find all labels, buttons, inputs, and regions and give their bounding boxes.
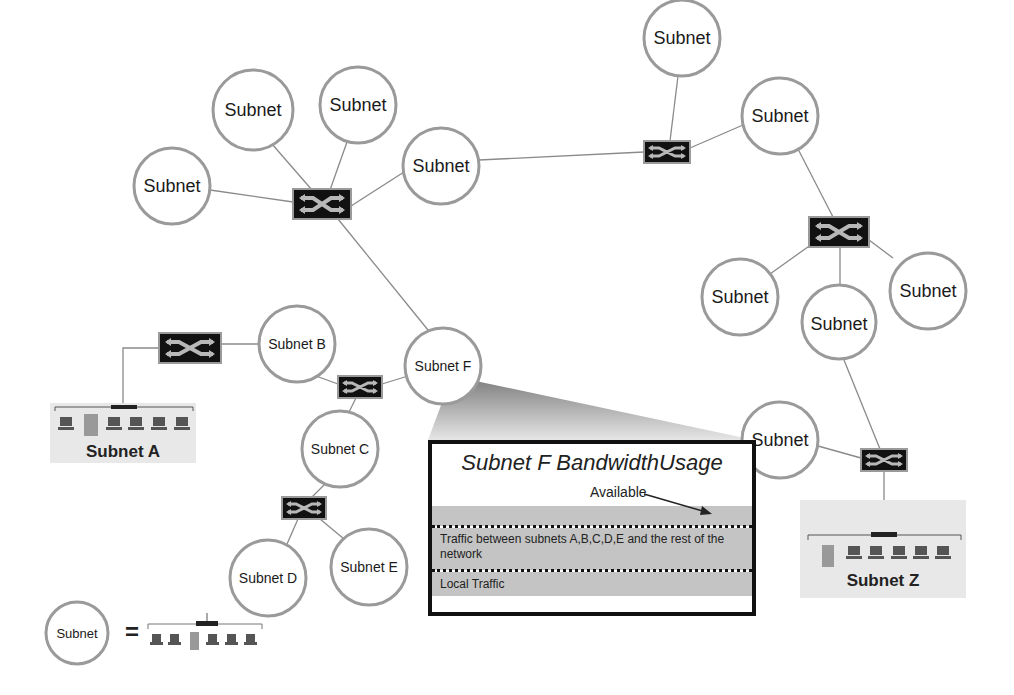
computer-icons <box>150 632 257 650</box>
subnet-node[interactable]: Subnet <box>134 148 210 224</box>
subnet-f-label: Subnet F <box>415 358 472 374</box>
subnet-e-node[interactable]: Subnet E <box>331 529 407 605</box>
subnet-node[interactable]: Subnet <box>320 67 396 143</box>
subnet-d-label: Subnet D <box>239 570 297 586</box>
local-traffic-label: Local Traffic <box>440 577 504 592</box>
subnet-z-box[interactable]: Subnet Z <box>800 500 966 598</box>
subnet-d-node[interactable]: Subnet D <box>230 540 306 616</box>
switch-icon[interactable] <box>282 497 326 519</box>
subnet-label: Subnet <box>899 281 956 301</box>
available-label: Available <box>590 484 647 500</box>
subnet-node[interactable]: Subnet <box>742 78 818 154</box>
legend-equals: = <box>125 618 139 645</box>
subnet-label: Subnet <box>412 156 469 176</box>
switch-icon[interactable] <box>644 141 690 163</box>
link <box>330 142 347 190</box>
subnet-node[interactable]: Subnet <box>213 70 293 150</box>
switch-icon[interactable] <box>293 189 351 219</box>
subnet-node[interactable]: Subnet <box>644 0 720 76</box>
subnet-c-node[interactable]: Subnet C <box>302 411 378 487</box>
link <box>287 519 298 544</box>
subnet-label: Subnet <box>751 430 808 450</box>
subnet-label: Subnet <box>224 100 281 120</box>
subnet-a-box[interactable]: Subnet A <box>50 403 196 463</box>
subnet-label: Subnet <box>329 95 386 115</box>
switch-icon[interactable] <box>338 376 382 398</box>
subnet-label: Subnet <box>751 106 808 126</box>
link <box>844 360 880 449</box>
legend-subnet-circle: Subnet <box>46 602 108 664</box>
subnet-f-node[interactable]: Subnet F <box>405 328 481 404</box>
subnet-node[interactable]: Subnet <box>702 259 778 335</box>
link <box>818 446 861 458</box>
subnet-z-label: Subnet Z <box>847 571 920 590</box>
subnet-node[interactable]: Subnet <box>802 285 876 359</box>
switch-icon[interactable] <box>861 449 907 471</box>
subnet-node[interactable]: Subnet <box>890 253 966 329</box>
subnet-a-label: Subnet A <box>86 442 160 461</box>
legend: = <box>125 613 262 650</box>
link <box>272 144 312 190</box>
link <box>316 376 338 384</box>
switch-icon[interactable] <box>809 217 869 247</box>
bandwidth-callout: Subnet F BandwidthUsage Available Traffi… <box>428 440 756 616</box>
link <box>320 519 344 539</box>
subnet-b-node[interactable]: Subnet B <box>259 306 335 382</box>
arrow-icon <box>642 490 722 520</box>
link <box>770 244 812 274</box>
traffic-between-label: Traffic between subnets A,B,C,D,E and th… <box>440 532 740 562</box>
link <box>123 348 159 406</box>
link <box>479 152 644 160</box>
subnet-b-label: Subnet B <box>268 336 326 352</box>
link <box>670 76 678 141</box>
subnet-label: Subnet <box>143 176 200 196</box>
subnet-label: Subnet <box>653 28 710 48</box>
link <box>798 149 833 217</box>
legend-subnet-label: Subnet <box>56 626 98 641</box>
link <box>210 190 293 202</box>
link <box>312 485 324 497</box>
link <box>338 219 428 330</box>
subnet-e-label: Subnet E <box>340 559 398 575</box>
subnet-c-label: Subnet C <box>311 441 369 457</box>
subnet-label: Subnet <box>810 314 867 334</box>
link <box>351 172 404 206</box>
link <box>690 125 743 148</box>
switch-icon[interactable] <box>159 333 221 363</box>
subnet-node[interactable]: Subnet <box>403 128 479 204</box>
link <box>349 398 356 412</box>
link <box>869 240 893 258</box>
subnet-label: Subnet <box>711 287 768 307</box>
callout-title: Subnet F BandwidthUsage <box>432 450 752 476</box>
link <box>382 376 408 384</box>
